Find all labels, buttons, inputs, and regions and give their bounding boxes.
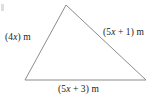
- label-bottom-prefix: (5: [58, 84, 66, 94]
- label-right-suffix: + 1) m: [115, 27, 144, 37]
- label-bottom-suffix: + 3) m: [70, 84, 99, 94]
- side-label-right: (5x + 1) m: [103, 28, 144, 38]
- side-label-bottom: (5x + 3) m: [58, 85, 99, 95]
- side-label-left: (4x) m: [5, 33, 31, 43]
- triangle-figure: (4x) m (5x + 1) m (5x + 3) m: [0, 0, 163, 102]
- triangle-outline: [25, 5, 146, 80]
- label-left-prefix: (4: [5, 32, 13, 42]
- label-right-prefix: (5: [103, 27, 111, 37]
- label-left-suffix: ) m: [17, 32, 30, 42]
